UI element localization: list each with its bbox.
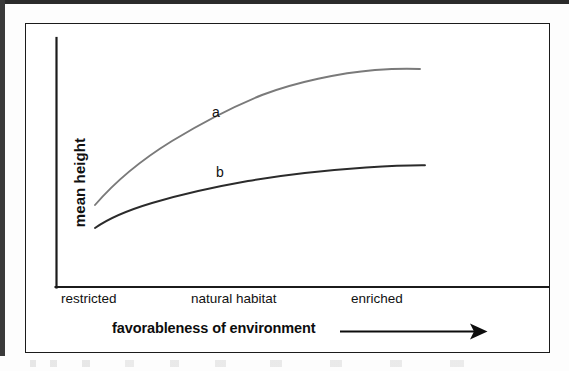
scan-artifact-top bbox=[0, 0, 569, 4]
x-tick-label-enriched: enriched bbox=[351, 291, 403, 306]
x-tick-label-restricted: restricted bbox=[61, 291, 117, 306]
x-axis-caption: favorableness of environment bbox=[112, 320, 315, 336]
x-tick-label-natural-habitat: natural habitat bbox=[191, 291, 277, 306]
figure-page: mean height a b restricted natural habit… bbox=[0, 0, 569, 371]
scan-artifact-left bbox=[0, 0, 5, 356]
curve-label-b: b bbox=[216, 164, 224, 180]
curve-label-a: a bbox=[212, 104, 220, 120]
scan-artifact-bottom bbox=[30, 360, 550, 367]
y-axis-label: mean height bbox=[71, 103, 88, 263]
